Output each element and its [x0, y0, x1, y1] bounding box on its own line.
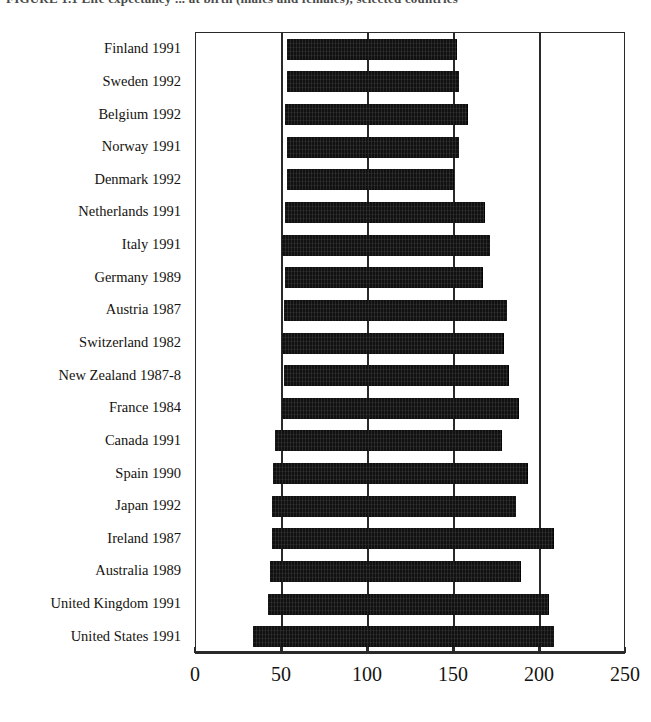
category-label: France 1984 — [109, 400, 181, 415]
chart-figure: FIGURE 1.1 Life expectancy ... at birth … — [0, 0, 651, 722]
bar — [287, 71, 459, 92]
bar — [287, 39, 457, 60]
category-label: Canada 1991 — [105, 433, 181, 448]
category-label: Austria 1987 — [106, 302, 181, 317]
x-tick-label: 50 — [271, 664, 291, 684]
category-label: Belgium 1992 — [98, 107, 181, 122]
bar — [285, 267, 483, 288]
bar — [287, 169, 454, 190]
bar — [287, 137, 459, 158]
bar — [282, 235, 490, 256]
bar — [285, 104, 467, 125]
category-axis-labels: Finland 1991Sweden 1992Belgium 1992Norwa… — [0, 32, 189, 652]
x-tick-50 — [280, 647, 282, 653]
x-tick-label: 0 — [190, 664, 200, 684]
category-label: Norway 1991 — [102, 139, 181, 154]
category-label: Italy 1991 — [122, 237, 181, 252]
bar — [284, 365, 509, 386]
category-label: Netherlands 1991 — [78, 204, 181, 219]
bar — [284, 300, 508, 321]
category-label: Ireland 1987 — [107, 531, 181, 546]
bar — [270, 561, 521, 582]
bar — [272, 528, 554, 549]
category-label: Finland 1991 — [104, 41, 181, 56]
x-axis: 050100150200250 — [195, 652, 625, 654]
category-label: United States 1991 — [71, 629, 181, 644]
x-tick-label: 100 — [352, 664, 382, 684]
bar — [275, 430, 502, 451]
figure-title-cropped: FIGURE 1.1 Life expectancy ... at birth … — [0, 0, 651, 14]
category-label: Japan 1992 — [115, 498, 181, 513]
x-tick-label: 250 — [610, 664, 640, 684]
x-tick-250 — [624, 647, 626, 653]
bar — [282, 398, 519, 419]
x-tick-200 — [538, 647, 540, 653]
figure-title-text: FIGURE 1.1 Life expectancy ... at birth … — [6, 0, 458, 7]
category-label: Australia 1989 — [95, 563, 181, 578]
bar — [273, 463, 528, 484]
category-label: Germany 1989 — [94, 270, 181, 285]
plot-area — [195, 32, 625, 652]
x-tick-100 — [366, 647, 368, 653]
x-tick-label: 150 — [438, 664, 468, 684]
bar — [282, 333, 504, 354]
x-tick-150 — [452, 647, 454, 653]
category-label: Sweden 1992 — [102, 74, 181, 89]
x-axis-line — [195, 652, 625, 654]
category-label: Denmark 1992 — [94, 172, 181, 187]
category-label: United Kingdom 1991 — [51, 596, 182, 611]
x-tick-label: 200 — [524, 664, 554, 684]
gridline-200 — [539, 33, 540, 651]
category-label: New Zealand 1987-8 — [59, 368, 181, 383]
bar — [272, 496, 516, 517]
category-label: Switzerland 1982 — [79, 335, 181, 350]
bar — [268, 594, 548, 615]
bar — [253, 626, 554, 647]
x-tick-0 — [194, 647, 196, 653]
category-label: Spain 1990 — [115, 466, 181, 481]
bar — [285, 202, 485, 223]
